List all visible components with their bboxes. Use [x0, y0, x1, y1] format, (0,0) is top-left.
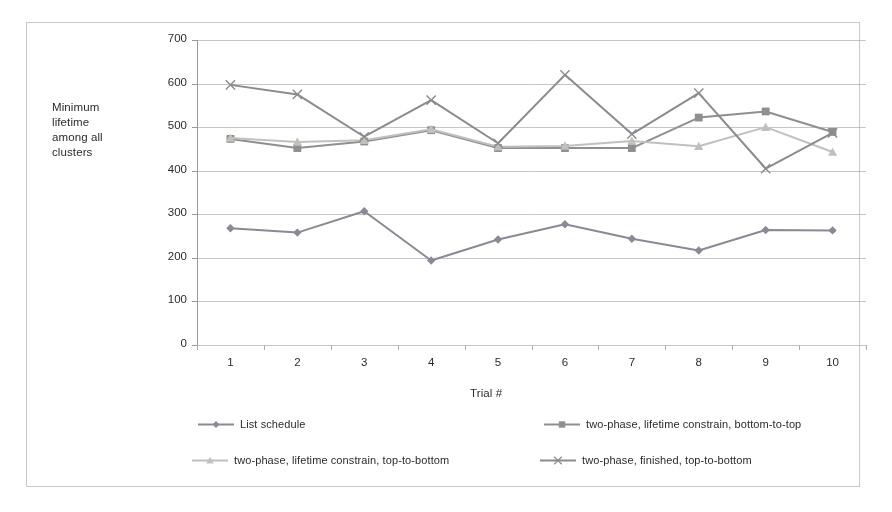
legend-label: List schedule [240, 418, 306, 430]
x-tick-label: 10 [818, 356, 848, 368]
y-tick-label: 400 [139, 163, 187, 175]
x-tick-label: 6 [550, 356, 580, 368]
y-axis-title-line-2: lifetime [52, 115, 147, 130]
x-tick-label: 1 [215, 356, 245, 368]
y-tick-label: 500 [139, 119, 187, 131]
x-tick-label: 2 [282, 356, 312, 368]
x-tick-label: 3 [349, 356, 379, 368]
y-axis-title-line-4: clusters [52, 145, 147, 160]
x-tick-label: 9 [751, 356, 781, 368]
x-tick-label: 5 [483, 356, 513, 368]
legend-item-two-phase-bottom-to-top[interactable]: two-phase, lifetime constrain, bottom-to… [542, 416, 801, 432]
legend-item-list-schedule[interactable]: List schedule [196, 416, 306, 432]
legend-marker-cross-icon [538, 453, 578, 467]
y-axis-title-line-3: among all [52, 130, 147, 145]
x-tick-label: 7 [617, 356, 647, 368]
y-axis-title-line-1: Minimum [52, 100, 147, 115]
legend-marker-triangle-icon [190, 453, 230, 467]
legend-item-two-phase-finished-top-to-bottom[interactable]: two-phase, finished, top-to-bottom [538, 452, 752, 468]
legend-label: two-phase, lifetime constrain, bottom-to… [586, 418, 801, 430]
legend-label: two-phase, finished, top-to-bottom [582, 454, 752, 466]
y-tick-label: 0 [139, 337, 187, 349]
y-tick-label: 600 [139, 76, 187, 88]
y-tick-label: 700 [139, 32, 187, 44]
x-tick-label: 8 [684, 356, 714, 368]
legend-label: two-phase, lifetime constrain, top-to-bo… [234, 454, 449, 466]
x-axis-title: Trial # [470, 386, 502, 401]
legend-marker-square-icon [542, 417, 582, 431]
x-tick-label: 4 [416, 356, 446, 368]
y-axis-title: Minimum lifetime among all clusters [52, 100, 147, 160]
y-tick-label: 300 [139, 206, 187, 218]
legend-marker-diamond-icon [196, 417, 236, 431]
legend-item-two-phase-top-to-bottom[interactable]: two-phase, lifetime constrain, top-to-bo… [190, 452, 449, 468]
y-tick-label: 100 [139, 293, 187, 305]
chart-legend: List schedule two-phase, lifetime constr… [190, 414, 860, 476]
y-tick-label: 200 [139, 250, 187, 262]
